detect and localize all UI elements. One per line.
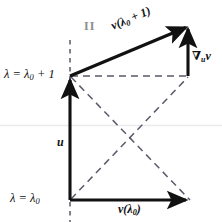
lambda-lower-text: λ = λ: [10, 191, 36, 205]
lambda-upper-tail: + 1: [34, 67, 55, 81]
lambda-lower-subscript: 0: [36, 196, 40, 206]
v0-head: v(λ: [118, 202, 133, 216]
vector-u-label: u: [57, 136, 64, 148]
figure-container: II λ = λ0 + 1 λ = λ0 u v(λ0) v(λ0 + 1) ∇…: [0, 0, 222, 222]
vector-v-lambda0-plus-1-arrow: [70, 28, 186, 77]
lambda-upper-text: λ = λ: [4, 67, 30, 81]
lambda-lower-label: λ = λ0: [10, 192, 40, 206]
vector-v-lambda0-label: v(λ0): [118, 203, 141, 217]
nabla-icon: ∇: [192, 49, 201, 63]
region-label-ii: II: [84, 20, 95, 32]
lambda-upper-label: λ = λ0 + 1: [4, 68, 55, 82]
nabla-vector-v: v: [205, 49, 210, 63]
covariant-derivative-label: ∇uv: [192, 50, 211, 64]
diagonal-guide-down-dashed: [71, 77, 190, 200]
diagram-canvas: [0, 0, 222, 222]
v0-tail: ): [137, 202, 141, 216]
